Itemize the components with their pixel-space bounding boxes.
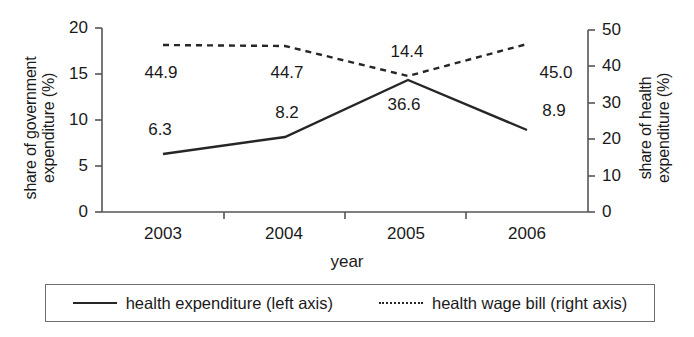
left-axis-title: share of government expenditure (%) bbox=[22, 28, 58, 228]
x-axis-title: year bbox=[0, 252, 694, 272]
point-label-expenditure-2004: 8.2 bbox=[275, 103, 299, 123]
point-label-expenditure-2003: 6.3 bbox=[148, 120, 172, 140]
series-health-expenditure-line bbox=[163, 80, 527, 154]
point-label-wage-bill-2003: 44.9 bbox=[144, 63, 177, 83]
left-axis-title-line2: expenditure (%) bbox=[40, 28, 58, 228]
right-axis-title-line2: expenditure (%) bbox=[655, 28, 673, 228]
x-category-label-2005: 2005 bbox=[366, 224, 446, 244]
point-label-expenditure-2006: 8.9 bbox=[542, 101, 566, 121]
chart-legend: health expenditure (left axis) health wa… bbox=[45, 284, 655, 322]
legend-item-health-expenditure: health expenditure (left axis) bbox=[73, 294, 333, 313]
point-label-expenditure-2005: 14.4 bbox=[390, 42, 423, 62]
series-health-wage-bill-line bbox=[163, 44, 527, 76]
x-category-label-2004: 2004 bbox=[244, 224, 324, 244]
left-axis-title-line1: share of government bbox=[22, 28, 40, 228]
legend-item-label: health wage bill (right axis) bbox=[432, 294, 627, 313]
x-category-label-2006: 2006 bbox=[487, 224, 567, 244]
right-axis-title-line1: share of health bbox=[637, 28, 655, 228]
legend-item-health-wage-bill: health wage bill (right axis) bbox=[379, 294, 627, 313]
point-label-wage-bill-2004: 44.7 bbox=[270, 63, 303, 83]
dashed-line-swatch-icon bbox=[379, 302, 423, 304]
right-axis-title: share of health expenditure (%) bbox=[637, 28, 673, 228]
point-label-wage-bill-2005: 36.6 bbox=[387, 95, 420, 115]
point-label-wage-bill-2006: 45.0 bbox=[539, 63, 572, 83]
legend-item-label: health expenditure (left axis) bbox=[126, 294, 333, 313]
chart-figure: 20 15 10 5 0 50 40 30 20 10 0 2003 2004 … bbox=[0, 0, 694, 337]
x-category-label-2003: 2003 bbox=[123, 224, 203, 244]
solid-line-swatch-icon bbox=[73, 302, 117, 304]
